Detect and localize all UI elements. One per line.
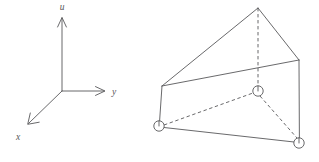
figure-root: u y x bbox=[0, 0, 319, 162]
axis-x bbox=[28, 91, 62, 124]
prism-edge-lefttop-to-apex bbox=[162, 8, 258, 86]
axis-label-u: u bbox=[60, 2, 65, 12]
prism-edge-lefttop-to-leftbottom bbox=[160, 86, 162, 121]
axis-y bbox=[62, 87, 105, 96]
axis-u bbox=[58, 18, 67, 92]
prism-edge-leftbottom-to-rightbottom bbox=[164, 128, 294, 143]
figure-canvas: u y x bbox=[0, 0, 319, 162]
prism-edge-lefttop-to-righttop bbox=[162, 60, 299, 86]
prism-visible-edges bbox=[160, 8, 300, 142]
prism-edge-mid-to-rightbottom bbox=[260, 96, 297, 138]
axis-label-x: x bbox=[15, 132, 21, 142]
axis-label-y: y bbox=[111, 87, 117, 97]
prism-edge-leftbottom-to-mid bbox=[164, 93, 253, 125]
coordinate-axes-group: u y x bbox=[15, 2, 117, 142]
prism-group bbox=[154, 8, 304, 148]
axis-x-line bbox=[29, 91, 63, 124]
prism-edge-apex-to-righttop bbox=[258, 8, 299, 60]
prism-nodes bbox=[154, 86, 304, 148]
